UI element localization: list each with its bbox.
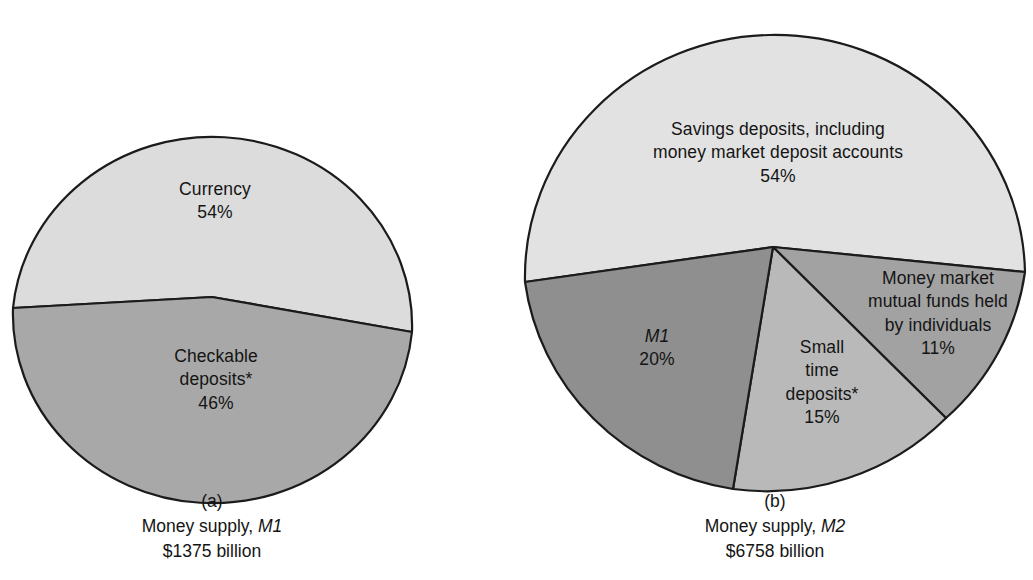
caption-b-title-prefix: Money supply, (705, 516, 821, 536)
caption-a-title-symbol: M1 (258, 516, 282, 536)
caption-b-title-symbol: M2 (821, 516, 845, 536)
caption-panel-a: (a) Money supply, M1 $1375 billion (22, 489, 402, 564)
two-pie-chart-figure: Currency 54% Checkable deposits* 46% Sav… (0, 0, 1033, 580)
caption-a-panel: (a) (22, 489, 402, 514)
pie-chart-m1 (13, 137, 412, 503)
caption-panel-b: (b) Money supply, M2 $6758 billion (565, 489, 985, 564)
caption-a-amount: $1375 billion (22, 539, 402, 564)
caption-b-amount: $6758 billion (565, 539, 985, 564)
caption-b-title: Money supply, M2 (565, 514, 985, 539)
caption-b-panel: (b) (565, 489, 985, 514)
caption-a-title: Money supply, M1 (22, 514, 402, 539)
slice-savings-deposits[interactable] (525, 35, 1025, 282)
pie-chart-m2 (525, 35, 1025, 491)
caption-a-title-prefix: Money supply, (142, 516, 258, 536)
slice-m1[interactable] (525, 247, 773, 489)
slice-checkable-deposits[interactable] (13, 297, 412, 503)
